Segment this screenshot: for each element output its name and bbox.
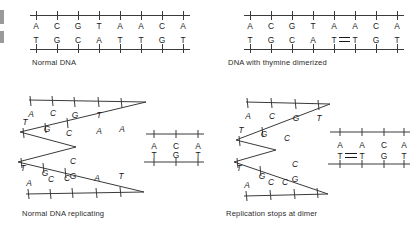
base: C — [269, 111, 276, 121]
bottom-strand-bases: T G C A T T G T — [247, 35, 399, 45]
caption-normal-dna: Normal DNA — [32, 58, 76, 67]
base: A — [180, 21, 186, 31]
base: A — [352, 21, 358, 31]
base: T — [331, 35, 336, 45]
base: G — [289, 21, 296, 31]
base: A — [25, 178, 32, 188]
base: G — [75, 21, 82, 31]
base: G — [381, 151, 388, 161]
base: C — [373, 21, 379, 31]
replication-stops-diagram: A C G T T G C A C G C T G C A A C A T — [220, 92, 416, 207]
base: T — [359, 151, 364, 161]
base: C — [292, 159, 299, 169]
upper-inner-backbone — [246, 102, 330, 104]
base: G — [293, 113, 300, 123]
upper-inner-backbone — [29, 100, 146, 102]
top-strand-bases: A C G T A A C A — [247, 21, 400, 31]
base: A — [243, 180, 250, 190]
base: T — [138, 35, 143, 45]
base: C — [159, 21, 165, 31]
base: C — [282, 177, 289, 187]
lower-inner-backbone — [26, 192, 144, 194]
base: T — [195, 150, 200, 160]
base: A — [96, 35, 102, 45]
base: A — [244, 111, 251, 121]
base: T — [20, 163, 26, 173]
base: A — [95, 126, 102, 136]
base: C — [48, 174, 55, 184]
caption-dimerized-dna: DNA with thymine dimerized — [228, 58, 327, 67]
lower-fork-join — [234, 150, 276, 162]
upper-inner-bases: A C G T — [244, 111, 322, 123]
base: G — [54, 35, 61, 45]
base: C — [75, 35, 81, 45]
base: A — [331, 21, 337, 31]
lower-inner-backbone — [244, 194, 328, 196]
base: C — [268, 21, 274, 31]
base: A — [33, 21, 39, 31]
bottom-strand-bases: T G C A T T G T — [33, 35, 185, 45]
base: T — [337, 151, 342, 161]
base: T — [33, 35, 38, 45]
base: T — [247, 35, 252, 45]
base: C — [268, 177, 275, 187]
base: A — [310, 35, 316, 45]
duplex-bottom-bases: T G T — [151, 150, 200, 160]
dimerized-dna-diagram: A C G T A A C A T G C A T T G T — [228, 6, 416, 58]
scan-artifact-top — [0, 10, 4, 24]
panel-replication-stops: A C G T T G C A C G C T G C A A C A T — [220, 92, 416, 207]
base: A — [27, 109, 34, 119]
base: C — [66, 128, 73, 138]
thymine-dimer-bond — [339, 38, 350, 42]
caption-replication-stops: Replication stops at dimer — [226, 209, 317, 218]
lower-outer-backbone — [18, 162, 144, 192]
base: T — [316, 113, 322, 123]
base: T — [401, 151, 406, 161]
base: T — [236, 163, 242, 173]
base: C — [284, 133, 291, 143]
upper-inner-bases: A C G T A A — [27, 108, 125, 136]
base: A — [401, 140, 407, 150]
base: T — [22, 117, 28, 127]
base: C — [50, 108, 57, 118]
upper-outer-bases: T G C — [238, 125, 291, 143]
upper-fork-join — [236, 140, 276, 150]
thymine-dimer-bond — [345, 154, 357, 158]
top-strand-bases: A C G T A A C A — [33, 21, 186, 31]
base: A — [359, 140, 365, 150]
base: C — [70, 156, 77, 166]
base: T — [96, 110, 102, 120]
base: T — [352, 35, 357, 45]
base: T — [118, 171, 124, 181]
base: A — [337, 140, 343, 150]
base: T — [394, 35, 399, 45]
base: T — [117, 35, 122, 45]
lower-fork-join — [18, 147, 76, 162]
upper-arm-rungs — [239, 98, 319, 146]
base: A — [118, 124, 125, 134]
base: T — [96, 21, 101, 31]
base: T — [151, 150, 156, 160]
base: G — [42, 168, 49, 178]
duplex-rungs — [340, 128, 404, 168]
upper-outer-backbone — [20, 102, 146, 132]
base: G — [373, 35, 380, 45]
base: G — [292, 174, 299, 184]
base: C — [289, 35, 295, 45]
base: C — [54, 21, 60, 31]
base: A — [394, 21, 400, 31]
lower-inner-bases: A C G C A T — [25, 156, 124, 188]
base: C — [64, 173, 71, 183]
base: G — [44, 124, 51, 134]
base: T — [238, 125, 244, 135]
base: T — [310, 21, 315, 31]
base: G — [261, 129, 268, 139]
base: A — [138, 21, 144, 31]
panel-normal-replicating: A C G T A A T G C A C G C A T T G C — [4, 92, 209, 207]
base: G — [72, 110, 79, 120]
caption-normal-replicating: Normal DNA replicating — [22, 209, 104, 218]
base: G — [259, 171, 266, 181]
panel-dimerized-dna: A C G T A A C A T G C A T T G T — [228, 6, 416, 58]
base: A — [247, 21, 253, 31]
panel-normal-dna: A C G T A A C A T G C A T T G T — [14, 6, 204, 58]
